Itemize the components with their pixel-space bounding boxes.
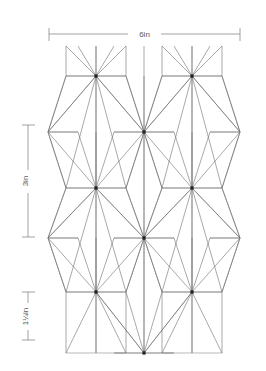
left-edge-profile	[48, 46, 66, 353]
star-vertex	[192, 76, 240, 188]
star-vertex	[96, 292, 192, 353]
star-vertex	[48, 76, 96, 188]
crease-pattern-svg: 6in 3in 1¼in	[0, 0, 266, 371]
dimension-height-major-label: 3in	[21, 176, 30, 187]
dimension-width-label: 6in	[139, 30, 150, 39]
dimension-height-minor-label: 1¼in	[21, 308, 30, 325]
star-vertex	[66, 238, 144, 353]
diagram-canvas: 6in 3in 1¼in	[0, 0, 266, 371]
crease-lines	[48, 46, 240, 353]
star-vertex	[144, 238, 222, 353]
star-vertex	[192, 188, 240, 292]
right-edge-profile	[222, 46, 240, 353]
interior-profile-lines	[66, 46, 162, 353]
star-vertex	[48, 188, 96, 292]
star-vertex	[96, 188, 192, 292]
